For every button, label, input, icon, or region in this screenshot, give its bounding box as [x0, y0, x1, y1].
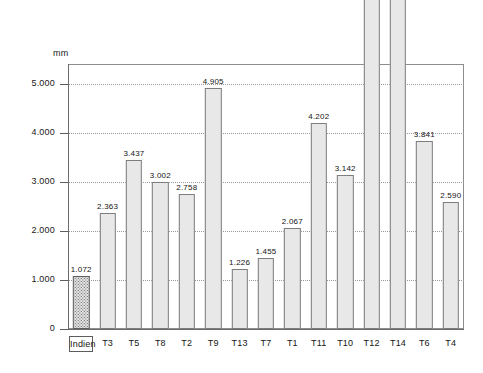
bar[interactable] — [231, 269, 247, 329]
bar-value-label: 3.841 — [414, 130, 435, 139]
bar-value-label: 3.002 — [150, 171, 171, 180]
bar-slot: 1.226 — [226, 0, 252, 373]
bar-chart: mm 01.0002.0003.0004.0005.000 1.0722.363… — [0, 0, 483, 373]
bar-slot: 4.905 — [200, 0, 226, 373]
bar[interactable] — [390, 0, 406, 329]
bar-slot: 1.455 — [253, 0, 279, 373]
x-axis-label: T10 — [332, 336, 358, 351]
bar-value-label: 1.455 — [255, 247, 276, 256]
bar-slot: 3.437 — [121, 0, 147, 373]
x-axis-label: T14 — [385, 336, 411, 351]
bar-slot: 4.202 — [306, 0, 332, 373]
x-axis-label: T2 — [174, 336, 200, 351]
bar[interactable] — [443, 202, 459, 329]
y-axis-tick-label: 2.000 — [7, 225, 55, 235]
bar[interactable] — [152, 182, 168, 329]
x-axis-label: T5 — [121, 336, 147, 351]
x-axis-label: T11 — [306, 336, 332, 351]
x-axis-label: T8 — [147, 336, 173, 351]
bar-value-label: 2.590 — [440, 191, 461, 200]
bar-slot: 3.142 — [332, 0, 358, 373]
bar[interactable] — [258, 258, 274, 329]
y-axis-tick-label: 4.000 — [7, 127, 55, 137]
bar-slot: 2.758 — [174, 0, 200, 373]
bar[interactable] — [337, 175, 353, 329]
x-axis-label: T13 — [226, 336, 252, 351]
bar-slot: 2.590 — [438, 0, 464, 373]
y-axis-unit-label: mm — [53, 48, 69, 58]
bar-slot: 2.363 — [94, 0, 120, 373]
bar-value-label: 4.202 — [308, 112, 329, 121]
x-axis-labels-group: IndienT3T5T8T2T9T13T7T1T11T10T12T14T6T4 — [68, 336, 464, 360]
y-axis-tick-label: 0 — [7, 323, 55, 333]
bar[interactable] — [179, 194, 195, 329]
bar[interactable] — [73, 276, 89, 329]
x-axis-label: Indien — [69, 336, 93, 352]
bar-value-label: 2.363 — [97, 202, 118, 211]
bar-slot: 1.072 — [68, 0, 94, 373]
bar-slot: 3.002 — [147, 0, 173, 373]
y-axis-tick-label: 3.000 — [7, 176, 55, 186]
x-axis-label: T4 — [438, 336, 464, 351]
bar[interactable] — [126, 160, 142, 329]
bar[interactable] — [416, 141, 432, 329]
x-axis-label: T12 — [358, 336, 384, 351]
bar[interactable] — [284, 228, 300, 329]
bar-slot: 10.869 — [358, 0, 384, 373]
y-axis-tick-label: 5.000 — [7, 78, 55, 88]
bar-value-label: 2.758 — [176, 183, 197, 192]
bar-slot: 11.407 — [385, 0, 411, 373]
bars-group: 1.0722.3633.4373.0022.7584.9051.2261.455… — [68, 0, 464, 373]
y-axis-tick-label: 1.000 — [7, 274, 55, 284]
x-axis-label: T1 — [279, 336, 305, 351]
bar-value-label: 3.142 — [335, 164, 356, 173]
x-axis-label: T3 — [94, 336, 120, 351]
x-axis-label: T6 — [411, 336, 437, 351]
bar[interactable] — [311, 123, 327, 329]
bar-value-label: 1.226 — [229, 258, 250, 267]
bar-slot: 2.067 — [279, 0, 305, 373]
bar[interactable] — [363, 0, 379, 329]
bar-value-label: 1.072 — [71, 265, 92, 274]
bar[interactable] — [205, 88, 221, 329]
bar-slot: 3.841 — [411, 0, 437, 373]
x-axis-label: T9 — [200, 336, 226, 351]
bar-value-label: 3.437 — [123, 149, 144, 158]
bar-value-label: 2.067 — [282, 217, 303, 226]
bar[interactable] — [99, 213, 115, 329]
bar-value-label: 4.905 — [203, 77, 224, 86]
x-axis-label: T7 — [253, 336, 279, 351]
